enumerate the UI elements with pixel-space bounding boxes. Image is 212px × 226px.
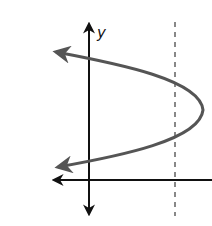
parabola-diagram: y [0, 0, 212, 226]
y-axis-label: y [96, 24, 107, 42]
parabola-curve [56, 52, 203, 167]
